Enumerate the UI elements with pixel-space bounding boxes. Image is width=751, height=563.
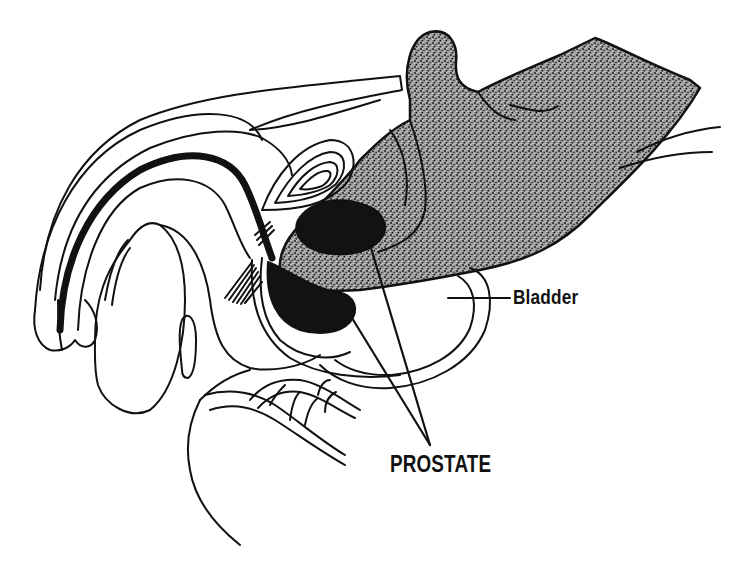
pelvic-floor-line — [210, 406, 345, 465]
vessel-branch — [258, 392, 355, 418]
pelvic-floor-line — [188, 400, 240, 545]
prostate-label: PROSTATE — [390, 451, 491, 478]
scrotum-inner-curve — [112, 248, 130, 305]
bladder-label: Bladder — [513, 285, 578, 309]
anatomy-figure: Bladder PROSTATE — [0, 0, 751, 563]
prostate-upper-lobe — [296, 200, 385, 254]
scrotum-inner-curve — [105, 240, 128, 300]
testis-outline — [180, 316, 196, 378]
prostate-pointer-line — [352, 318, 430, 445]
vessel-branch — [305, 398, 318, 425]
glans — [34, 300, 97, 351]
vessel-branch — [250, 380, 360, 410]
scrotum-outer — [95, 223, 185, 413]
anatomy-drawing — [0, 0, 751, 563]
perineum-line — [200, 370, 250, 400]
pubic-band-inner — [250, 100, 380, 130]
vessel-branch — [290, 392, 300, 420]
